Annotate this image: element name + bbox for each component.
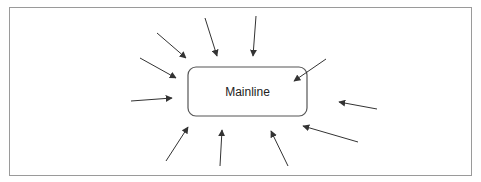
mainline-label: Mainline xyxy=(225,85,270,99)
arrow-bottom-center xyxy=(220,130,222,166)
arrow-top-left xyxy=(205,18,217,56)
center-node: Mainline xyxy=(188,67,307,116)
arrow-right-lower xyxy=(303,126,358,142)
arrow-left-upper xyxy=(140,58,176,78)
diagram-canvas: Mainline xyxy=(0,0,481,182)
arrow-top-left-upper xyxy=(157,33,186,58)
arrow-bottom-left xyxy=(166,127,188,161)
arrow-bottom-right xyxy=(271,131,288,166)
arrow-right xyxy=(339,102,377,109)
arrow-top-right xyxy=(253,16,256,56)
arrow-left xyxy=(131,98,172,101)
